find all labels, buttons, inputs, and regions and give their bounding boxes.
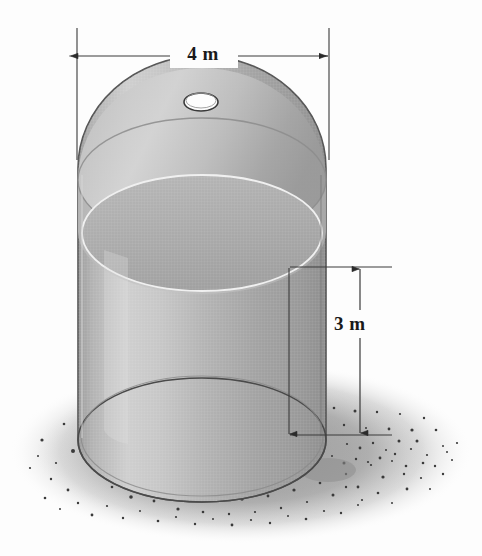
figure-container: 4 m 3 m bbox=[0, 0, 482, 556]
tank-illustration bbox=[0, 0, 482, 556]
width-dimension-label: 4 m bbox=[0, 43, 406, 65]
body-highlight bbox=[104, 250, 128, 444]
height-dimension-label: 3 m bbox=[334, 313, 366, 335]
